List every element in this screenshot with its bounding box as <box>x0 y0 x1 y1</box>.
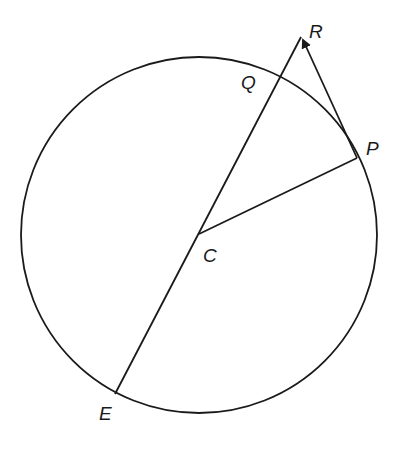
geometry-figure: R Q P C E <box>0 0 402 449</box>
circle <box>21 57 377 413</box>
label-C: C <box>203 245 217 266</box>
diagram-canvas: R Q P C E <box>0 0 402 449</box>
label-Q: Q <box>241 72 256 93</box>
label-R: R <box>309 21 323 42</box>
segment-CP <box>199 158 357 234</box>
label-E: E <box>99 403 112 424</box>
label-P: P <box>366 138 379 159</box>
segment-PR <box>303 40 357 158</box>
segment-ER <box>115 37 301 394</box>
